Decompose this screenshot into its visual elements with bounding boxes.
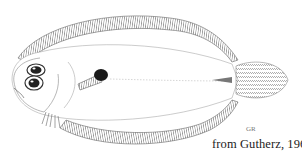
body-outline bbox=[12, 45, 238, 121]
pectoral-blotch bbox=[94, 69, 108, 81]
flatfish-drawing bbox=[0, 0, 302, 159]
lower-eye-icon bbox=[25, 76, 43, 90]
fish-illustration-frame: GR from Gutherz, 1967 bbox=[0, 0, 302, 159]
source-caption: from Gutherz, 1967 bbox=[212, 137, 302, 152]
artist-signature: GR bbox=[246, 125, 256, 133]
upper-eye-icon bbox=[27, 64, 45, 76]
caudal-fin bbox=[236, 62, 288, 98]
